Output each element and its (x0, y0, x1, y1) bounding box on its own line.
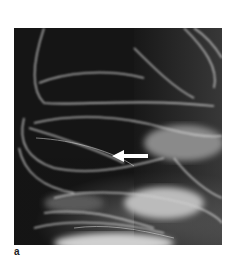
radiograph-image (14, 28, 222, 245)
panel-label: a (14, 246, 20, 258)
arrow-icon (112, 150, 148, 162)
